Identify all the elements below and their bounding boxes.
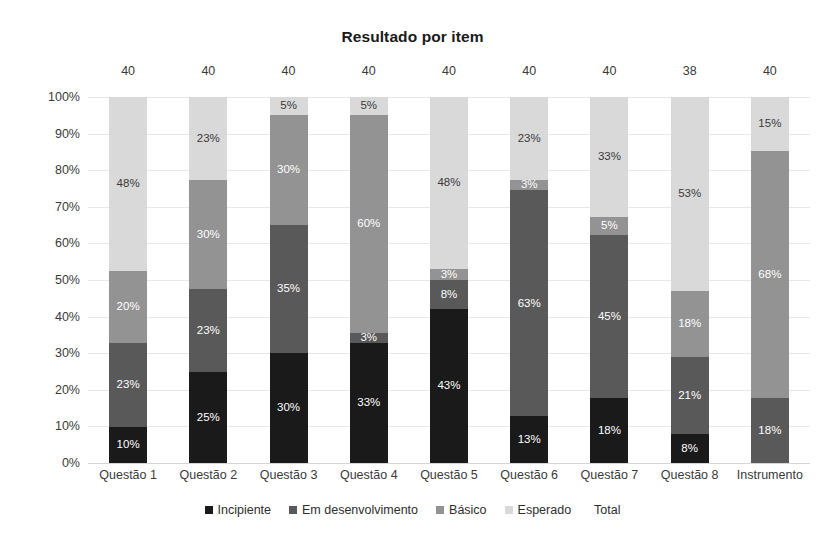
bar-segment[interactable]: 33% [590,97,628,217]
bar-segment-label: 45% [598,311,621,323]
y-axis-tick-label: 90% [34,127,80,141]
bar-segment-label: 48% [117,178,140,190]
plot-area: 10%23%20%48%25%23%30%23%30%35%30%5%33%3%… [88,97,810,463]
bar-segment[interactable]: 18% [751,398,789,463]
bar-segment[interactable]: 48% [430,97,468,269]
total-value: 38 [650,64,730,86]
bar-slot: 10%23%20%48% [88,97,168,463]
total-value: 40 [248,64,328,86]
bar-segment[interactable]: 5% [270,97,308,115]
bar-segment[interactable]: 25% [189,372,227,463]
bar-segment-label: 68% [758,269,781,281]
chart-legend: IncipienteEm desenvolvimentoBásicoEspera… [0,503,825,517]
y-axis-tick-label: 10% [34,419,80,433]
bar-segment[interactable]: 8% [671,434,709,463]
bar-segment[interactable]: 35% [270,225,308,353]
bar-segment[interactable]: 48% [109,97,147,271]
legend-label: Básico [449,503,487,517]
bar-segment-label: 23% [197,325,220,337]
stacked-bar[interactable]: 18%68%15% [751,97,789,463]
bar-segment-label: 18% [598,425,621,437]
bar-segment[interactable]: 68% [751,151,789,397]
legend-item[interactable]: Básico [436,503,487,517]
y-axis-tick-label: 20% [34,383,80,397]
total-value: 40 [329,64,409,86]
y-axis-tick-label: 30% [34,346,80,360]
bar-segment[interactable]: 5% [590,217,628,235]
bar-segment[interactable]: 3% [510,180,548,191]
y-axis-tick-label: 70% [34,200,80,214]
stacked-bar[interactable]: 33%3%60%5% [350,97,388,463]
bar-segment[interactable]: 13% [510,416,548,463]
legend-label: Esperado [518,503,572,517]
bar-segment-label: 53% [678,188,701,200]
stacked-bar[interactable]: 18%45%5%33% [590,97,628,463]
stacked-bar[interactable]: 10%23%20%48% [109,97,147,463]
bar-segment[interactable]: 18% [590,398,628,463]
bar-segment[interactable]: 15% [751,97,789,151]
legend-label: Em desenvolvimento [302,503,418,517]
legend-item[interactable]: Esperado [505,503,572,517]
bar-segment-label: 10% [117,439,140,451]
stacked-bar[interactable]: 30%35%30%5% [270,97,308,463]
bar-segment[interactable]: 43% [430,309,468,463]
stacked-bar[interactable]: 8%21%18%53% [671,97,709,463]
bar-segment[interactable]: 8% [430,280,468,309]
bar-segment-label: 23% [518,133,541,145]
legend-label: Total [594,503,620,517]
stacked-bar[interactable]: 25%23%30%23% [189,97,227,463]
bar-segment[interactable]: 23% [189,289,227,372]
legend-swatch-icon [289,506,297,514]
bar-segment-label: 30% [277,164,300,176]
legend-item[interactable]: Em desenvolvimento [289,503,418,517]
legend-item[interactable]: Total [589,503,620,517]
bar-segment-label: 15% [758,118,781,130]
legend-item[interactable]: Incipiente [205,503,272,517]
bar-segment[interactable]: 21% [671,357,709,434]
bar-segment[interactable]: 45% [590,235,628,398]
bar-segment-label: 60% [357,218,380,230]
y-axis-tick-label: 100% [34,90,80,104]
bar-segment-label: 18% [758,425,781,437]
bar-segment[interactable]: 23% [109,343,147,426]
bar-segment-label: 3% [360,332,377,344]
total-value: 40 [88,64,168,86]
bar-segment-label: 23% [197,133,220,145]
bar-segment-label: 8% [681,443,698,455]
bar-segment[interactable]: 23% [510,97,548,180]
bar-segment-label: 63% [518,298,541,310]
stacked-bar[interactable]: 43%8%3%48% [430,97,468,463]
legend-swatch-icon [205,506,213,514]
total-value: 40 [730,64,810,86]
bar-segment-label: 5% [601,220,618,232]
bar-segment[interactable]: 3% [430,269,468,280]
bar-segment-label: 20% [117,301,140,313]
x-axis-tick-label: Questão 4 [329,468,409,490]
bar-segment[interactable]: 10% [109,427,147,463]
bar-segment[interactable]: 30% [270,353,308,463]
bar-segment[interactable]: 63% [510,190,548,416]
total-value: 40 [168,64,248,86]
bar-segment[interactable]: 3% [350,333,388,344]
legend-swatch-icon [436,506,444,514]
bar-segment-label: 43% [437,380,460,392]
bar-segment[interactable]: 33% [350,343,388,463]
bar-segment[interactable]: 20% [109,271,147,343]
bar-segment[interactable]: 30% [270,115,308,225]
bar-segment[interactable]: 30% [189,180,227,289]
bar-slot: 18%45%5%33% [569,97,649,463]
bar-segment[interactable]: 18% [671,291,709,357]
bar-segment[interactable]: 60% [350,115,388,332]
bar-slot: 13%63%3%23% [489,97,569,463]
bar-slot: 43%8%3%48% [409,97,489,463]
stacked-bar[interactable]: 13%63%3%23% [510,97,548,463]
bar-segment-label: 30% [277,402,300,414]
bar-segment[interactable]: 23% [189,97,227,180]
y-axis: 100%90%80%70%60%50%40%30%20%10%0% [34,97,80,463]
bar-segment[interactable]: 53% [671,97,709,291]
bar-segment-label: 5% [360,100,377,112]
bar-segment[interactable]: 5% [350,97,388,115]
total-value: 40 [409,64,489,86]
bar-slot: 8%21%18%53% [650,97,730,463]
x-axis-tick-label: Questão 7 [569,468,649,490]
